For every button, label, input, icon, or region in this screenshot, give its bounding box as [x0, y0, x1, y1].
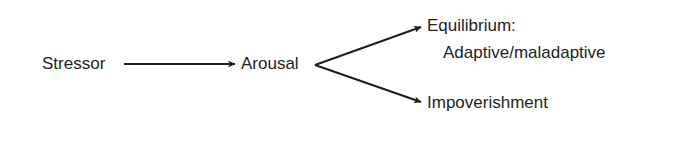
node-arousal: Arousal	[241, 54, 299, 74]
node-equilibrium-sublabel: Adaptive/maladaptive	[443, 43, 606, 63]
node-stressor: Stressor	[42, 54, 105, 74]
node-impoverishment: Impoverishment	[427, 93, 548, 113]
edge-arousal-to-equilibrium-arrow	[315, 27, 421, 65]
node-equilibrium: Equilibrium:	[427, 16, 516, 36]
edge-arousal-to-impoverishment-arrow	[315, 65, 421, 102]
